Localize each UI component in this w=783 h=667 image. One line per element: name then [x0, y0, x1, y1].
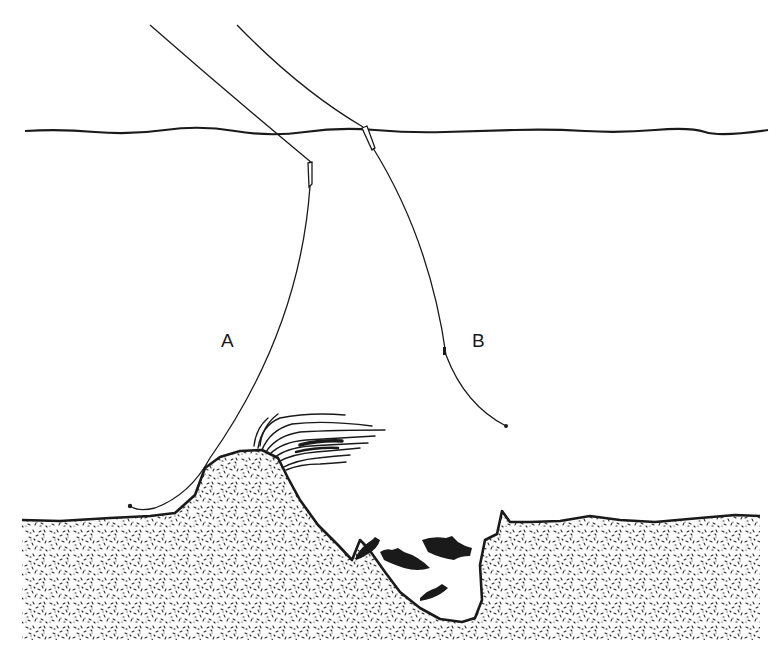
- line-a-upper: [150, 25, 312, 163]
- fish-4: [420, 584, 448, 601]
- line-b-lower: [373, 148, 506, 426]
- fish-2: [380, 548, 430, 570]
- label-line-b: B: [472, 331, 485, 350]
- line-b-shot: [443, 347, 446, 355]
- line-a-weight: [128, 504, 132, 508]
- quill-float-a: [308, 162, 312, 187]
- water-surface-line: [25, 128, 768, 135]
- figure-caption-cropped: [40, 660, 760, 667]
- line-b-hook: [504, 424, 508, 428]
- label-line-a: A: [221, 331, 234, 350]
- fishing-rig-diagram: A B: [0, 0, 783, 667]
- fish-3: [422, 536, 472, 560]
- rig-b: [237, 25, 508, 428]
- line-b-upper: [237, 25, 363, 127]
- lake-bed-sediment: [22, 450, 760, 640]
